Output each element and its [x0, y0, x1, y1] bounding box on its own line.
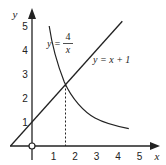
y-axis-label: y	[12, 8, 18, 20]
y-tick-2: 2	[22, 93, 28, 104]
line-equation-label: y = x + 1	[92, 54, 130, 65]
y-tick-1: 1	[22, 117, 28, 128]
function-graph: 1 2 3 4 5 x 1 2 3 4 5 y y = 4 x y = x + …	[0, 0, 166, 165]
y-axis-arrow-icon	[28, 8, 36, 19]
x-tick-4: 4	[115, 151, 121, 162]
y-tick-5: 5	[22, 21, 28, 32]
x-tick-5: 5	[137, 151, 143, 162]
x-axis-arrow-icon	[150, 142, 160, 150]
curve-eq-lhs: y =	[46, 38, 61, 49]
x-tick-1: 1	[51, 151, 57, 162]
x-tick-3: 3	[94, 151, 100, 162]
curve-eq-denominator: x	[65, 44, 71, 55]
x-tick-2: 2	[72, 151, 78, 162]
y-tick-4: 4	[22, 45, 28, 56]
curve-y-equals-4-over-x	[49, 26, 129, 129]
y-tick-3: 3	[22, 69, 28, 80]
origin-marker	[29, 143, 35, 149]
x-axis-label: x	[154, 150, 160, 162]
curve-eq-numerator: 4	[66, 31, 71, 42]
